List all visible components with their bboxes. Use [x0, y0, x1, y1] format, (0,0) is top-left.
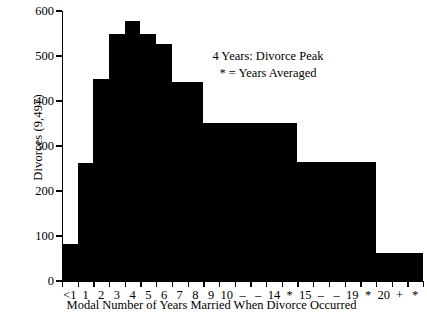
- x-axis-title: Modal Number of Years Married When Divor…: [0, 298, 423, 313]
- x-tick-mark: [407, 281, 408, 287]
- bar: [78, 163, 94, 281]
- x-tick-mark: [219, 281, 220, 287]
- x-tick-mark: [313, 281, 314, 287]
- bar: [203, 123, 219, 281]
- x-tick-mark: [172, 281, 173, 287]
- bar: [219, 123, 297, 281]
- y-tick-label: 600: [14, 5, 54, 18]
- y-tick-mark: [56, 190, 62, 191]
- x-tick-mark: [345, 281, 346, 287]
- x-tick-mark: [329, 281, 330, 287]
- chart-annotation: 4 Years: Divorce Peak * = Years Averaged: [168, 48, 368, 82]
- y-tick-label: 300: [14, 140, 54, 153]
- x-tick-mark: [282, 281, 283, 287]
- bar: [93, 79, 109, 282]
- annotation-line-1: 4 Years: Divorce Peak: [168, 48, 368, 65]
- y-tick-mark: [56, 55, 62, 56]
- bar: [188, 82, 204, 281]
- x-tick-mark: [250, 281, 251, 287]
- x-tick-mark: [125, 281, 126, 287]
- x-tick-mark: [360, 281, 361, 287]
- x-tick-mark: [188, 281, 189, 287]
- bar: [109, 34, 125, 281]
- x-tick-mark: [109, 281, 110, 287]
- x-tick-mark: [78, 281, 79, 287]
- y-tick-label: 400: [14, 95, 54, 108]
- x-tick-mark: [203, 281, 204, 287]
- x-tick-mark: [93, 281, 94, 287]
- x-tick-mark: [297, 281, 298, 287]
- x-tick-mark: [140, 281, 141, 287]
- y-tick-label: 0: [14, 275, 54, 288]
- bar: [125, 21, 141, 281]
- x-tick-mark: [266, 281, 267, 287]
- x-tick-mark: [62, 281, 63, 287]
- y-axis-title: Divorces (9,497): [31, 38, 46, 238]
- x-tick-mark: [156, 281, 157, 287]
- bar: [297, 162, 375, 281]
- bar: [376, 253, 423, 281]
- y-tick-mark: [56, 100, 62, 101]
- annotation-line-2: * = Years Averaged: [168, 65, 368, 82]
- bar: [140, 34, 156, 281]
- bar: [172, 82, 188, 281]
- x-tick-mark: [392, 281, 393, 287]
- y-tick-label: 100: [14, 230, 54, 243]
- y-tick-label: 500: [14, 50, 54, 63]
- y-tick-mark: [56, 10, 62, 11]
- x-tick-mark: [423, 281, 424, 287]
- bar: [62, 244, 78, 281]
- x-tick-mark: [235, 281, 236, 287]
- x-tick-mark: [376, 281, 377, 287]
- y-tick-mark: [56, 235, 62, 236]
- y-tick-mark: [56, 145, 62, 146]
- y-tick-label: 200: [14, 185, 54, 198]
